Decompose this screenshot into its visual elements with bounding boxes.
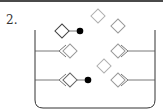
left-lower-receptor-with-labeled-antigen [59,73,91,87]
free-antigen-diamond [111,19,125,33]
right-upper-receptor-with-antigen [111,44,128,58]
right-lower-receptor-with-antigen [111,73,128,87]
free-antigen-diamond [91,9,105,23]
free-antigen-diamond [97,59,111,73]
assay-diagram [0,0,163,112]
free-labeled-antigen [55,24,83,38]
container-outline [35,30,155,108]
left-upper-receptor-with-antigen [59,44,77,58]
